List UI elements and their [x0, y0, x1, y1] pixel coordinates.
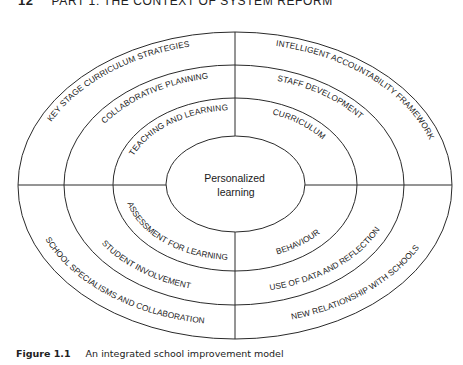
label-behaviour: BEHAVIOUR — [275, 227, 322, 257]
center-ellipse — [166, 136, 305, 232]
figure-label: Figure 1.1 — [16, 348, 71, 359]
label-curriculum: CURRICULUM — [272, 107, 328, 142]
label-teaching-and-learning: TEACHING AND LEARNING — [127, 102, 229, 157]
figure-caption: Figure 1.1 An integrated school improvem… — [16, 348, 284, 359]
center-label-line2: learning — [217, 186, 255, 198]
center-label: Personalized learning — [204, 172, 268, 198]
school-improvement-diagram: Personalized learning KEY STAGE CURRICUL… — [0, 0, 463, 365]
label-use-of-data-and-reflection: USE OF DATA AND REFLECTION — [269, 225, 382, 293]
center-label-line1: Personalized — [204, 172, 265, 184]
figure-caption-text: An integrated school improvement model — [86, 348, 284, 359]
